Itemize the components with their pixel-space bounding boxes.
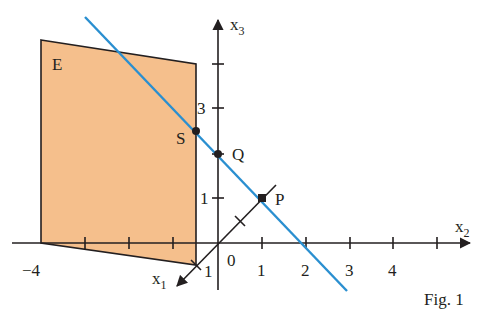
point-q-label: Q	[232, 145, 244, 164]
diagram-canvas: E S Q P x3 x2 x1 −4 1 2 3 4 0 1 1 3 Fig.…	[0, 0, 490, 324]
plane-e	[41, 40, 196, 265]
point-p-label: P	[275, 190, 284, 209]
x3-tick-label-3: 3	[197, 99, 206, 118]
x3-tick-label-1: 1	[200, 189, 209, 208]
x2-tick-label-4: 4	[388, 261, 397, 280]
figure-caption: Fig. 1	[424, 290, 464, 309]
origin-label: 0	[227, 251, 236, 270]
x1-axis-label: x1	[152, 269, 167, 292]
x2-tick-label-2: 2	[301, 261, 310, 280]
point-p	[258, 194, 266, 202]
x3-axis-label: x3	[230, 15, 245, 38]
x2-axis-label: x2	[455, 217, 470, 240]
x2-tick-label-3: 3	[345, 261, 354, 280]
point-q	[214, 150, 222, 158]
x2-tick-label-neg4: −4	[22, 261, 41, 280]
point-s	[192, 127, 200, 135]
x1-tick-label-1: 1	[204, 262, 213, 281]
x2-tick-label-1: 1	[257, 261, 266, 280]
point-s-label: S	[176, 129, 185, 148]
plane-label: E	[52, 55, 62, 74]
